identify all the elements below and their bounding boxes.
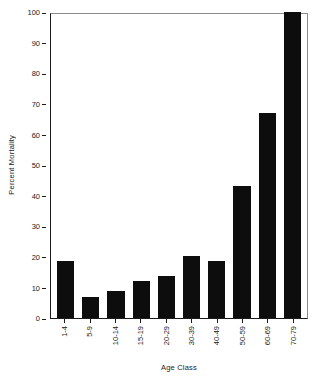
x-axis-tick-label: 15-19 (137, 326, 145, 345)
x-axis-tick-label: 20-29 (163, 326, 171, 345)
x-axis-tick: 5-9 (77, 319, 102, 364)
bar (158, 276, 175, 318)
y-axis-tick-mark (42, 288, 46, 289)
x-axis-tick-mark (191, 319, 192, 323)
y-axis-tick-label: 90 (32, 40, 42, 48)
bar (259, 113, 276, 318)
y-axis-tick-mark (42, 43, 46, 44)
bar (208, 261, 225, 318)
x-axis-title: Age Class (50, 363, 308, 372)
x-axis-tick-mark (64, 319, 65, 323)
bar (107, 291, 124, 318)
y-axis-tick-mark (42, 13, 46, 14)
y-axis-tick-label: 50 (32, 162, 42, 170)
x-axis-tick-mark (242, 319, 243, 323)
x-axis: 1-45-910-1415-1920-2930-3940-4950-5960-6… (50, 319, 308, 364)
y-axis-tick-mark (42, 227, 46, 228)
bar (183, 256, 200, 318)
bar-series (51, 14, 307, 318)
x-axis-tick: 70-79 (281, 319, 306, 364)
y-axis-title: Percent Mortality (2, 0, 20, 330)
bar (133, 281, 150, 318)
y-axis-tick-label: 80 (32, 70, 42, 78)
x-axis-tick-mark (166, 319, 167, 323)
y-axis-tick-label: 70 (32, 101, 42, 109)
x-axis-tick-mark (115, 319, 116, 323)
y-axis-tick-mark (42, 135, 46, 136)
y-axis-tick-mark (42, 166, 46, 167)
bar-slot (103, 14, 128, 318)
bar-slot (53, 14, 78, 318)
bar-slot (179, 14, 204, 318)
bar-slot (229, 14, 254, 318)
bar-slot (78, 14, 103, 318)
x-axis-tick-mark (90, 319, 91, 323)
x-axis-tick-mark (217, 319, 218, 323)
bar-slot (154, 14, 179, 318)
y-axis-tick-label: 100 (27, 9, 42, 17)
y-axis-tick-mark (42, 319, 46, 320)
bar-chart-figure: Percent Mortality 0102030405060708090100… (0, 0, 319, 383)
bar (233, 186, 250, 318)
y-axis-tick-mark (42, 104, 46, 105)
y-axis-tick-label: 30 (32, 223, 42, 231)
x-axis-tick: 50-59 (230, 319, 255, 364)
bar-slot (129, 14, 154, 318)
bar (57, 261, 74, 318)
x-axis-tick-label: 5-9 (86, 326, 94, 337)
y-axis: 0102030405060708090100 (20, 0, 46, 330)
bar (82, 297, 99, 318)
bar-slot (280, 14, 305, 318)
y-axis-tick-label: 10 (32, 285, 42, 293)
bar-slot (204, 14, 229, 318)
x-axis-tick: 20-29 (154, 319, 179, 364)
x-axis-tick: 40-49 (204, 319, 229, 364)
x-axis-tick-label: 60-69 (264, 326, 272, 345)
x-axis-tick-mark (267, 319, 268, 323)
x-axis-tick-label: 50-59 (239, 326, 247, 345)
y-axis-title-text: Percent Mortality (7, 135, 16, 195)
bar-slot (255, 14, 280, 318)
x-axis-tick: 30-39 (179, 319, 204, 364)
x-axis-tick-label: 40-49 (213, 326, 221, 345)
y-axis-tick-mark (42, 257, 46, 258)
x-axis-tick: 10-14 (103, 319, 128, 364)
x-axis-tick: 15-19 (128, 319, 153, 364)
x-axis-tick-label: 70-79 (290, 326, 298, 345)
y-axis-tick-mark (42, 196, 46, 197)
bar (284, 12, 301, 318)
plot-area (50, 13, 308, 319)
x-axis-tick: 1-4 (52, 319, 77, 364)
x-axis-tick-mark (293, 319, 294, 323)
x-axis-tick-mark (140, 319, 141, 323)
y-axis-tick-label: 60 (32, 132, 42, 140)
y-axis-tick-mark (42, 74, 46, 75)
y-axis-tick-label: 40 (32, 193, 42, 201)
x-axis-tick: 60-69 (255, 319, 280, 364)
x-axis-tick-label: 30-39 (188, 326, 196, 345)
y-axis-tick-label: 20 (32, 254, 42, 262)
x-axis-tick-label: 10-14 (112, 326, 120, 345)
x-axis-tick-label: 1-4 (61, 326, 69, 337)
